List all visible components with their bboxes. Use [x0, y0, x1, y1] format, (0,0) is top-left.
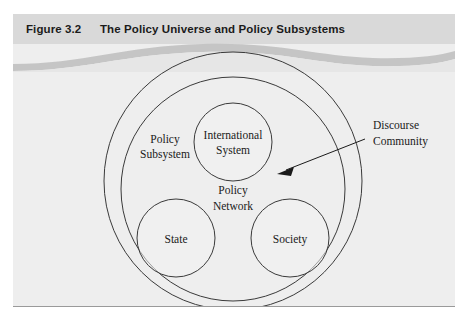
- figure-body: Policy Subsystem International System Po…: [13, 44, 455, 306]
- figure-title: The Policy Universe and Policy Subsystem…: [100, 23, 345, 35]
- policy-universe-diagram: Policy Subsystem International System Po…: [13, 44, 455, 306]
- label-international-system-line2: System: [216, 144, 250, 157]
- label-state: State: [165, 233, 188, 245]
- label-policy-network-line2: Network: [213, 200, 253, 212]
- label-society: Society: [273, 233, 308, 246]
- figure-bottom-rule: [13, 306, 455, 307]
- circle-international-system: [194, 103, 272, 181]
- figure-number: Figure 3.2: [26, 23, 100, 35]
- label-policy-network-line1: Policy: [218, 184, 248, 197]
- label-discourse-community-line1: Discourse: [373, 119, 419, 131]
- callout-arrow-head: [277, 167, 294, 176]
- figure-panel: Policy Subsystem International System Po…: [13, 14, 455, 306]
- callout-arrow-line: [286, 139, 365, 170]
- figure-caption: Figure 3.2 The Policy Universe and Polic…: [13, 14, 455, 44]
- label-policy-subsystem-line1: Policy: [150, 133, 180, 146]
- label-international-system-line1: International: [204, 129, 263, 141]
- figure-root: Policy Subsystem International System Po…: [0, 0, 472, 326]
- label-policy-subsystem-line2: Subsystem: [140, 148, 190, 161]
- label-discourse-community-line2: Community: [373, 135, 428, 148]
